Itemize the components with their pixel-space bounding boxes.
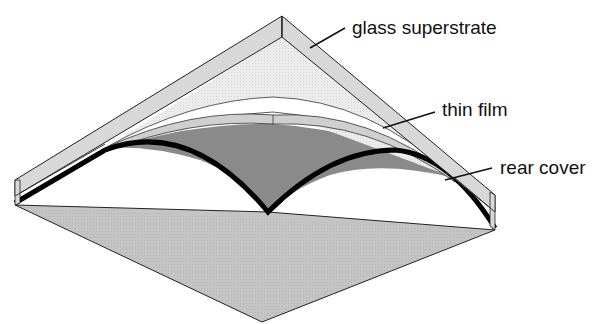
leader-glass-superstrate bbox=[310, 28, 345, 48]
module-diagram: glass superstrate thin film rear cover bbox=[0, 0, 603, 324]
label-rear-cover: rear cover bbox=[500, 157, 586, 178]
label-thin-film: thin film bbox=[442, 99, 507, 120]
left-edge-side bbox=[15, 180, 20, 205]
label-glass-superstrate: glass superstrate bbox=[352, 17, 497, 38]
base-slab bbox=[15, 205, 495, 322]
